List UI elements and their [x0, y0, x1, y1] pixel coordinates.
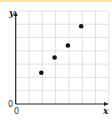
y-axis-label: y — [9, 9, 14, 18]
scatter-plot — [0, 0, 112, 120]
data-point — [52, 55, 57, 60]
y-axis-arrow-icon — [14, 11, 18, 16]
origin-label-x: 0 — [14, 108, 19, 116]
data-point — [39, 70, 44, 75]
axes — [14, 11, 109, 106]
grid — [16, 11, 109, 104]
data-points — [39, 24, 83, 75]
data-point — [79, 24, 84, 29]
origin-label-y: 0 — [8, 101, 13, 109]
data-point — [66, 43, 71, 48]
x-axis-label: x — [103, 107, 108, 116]
